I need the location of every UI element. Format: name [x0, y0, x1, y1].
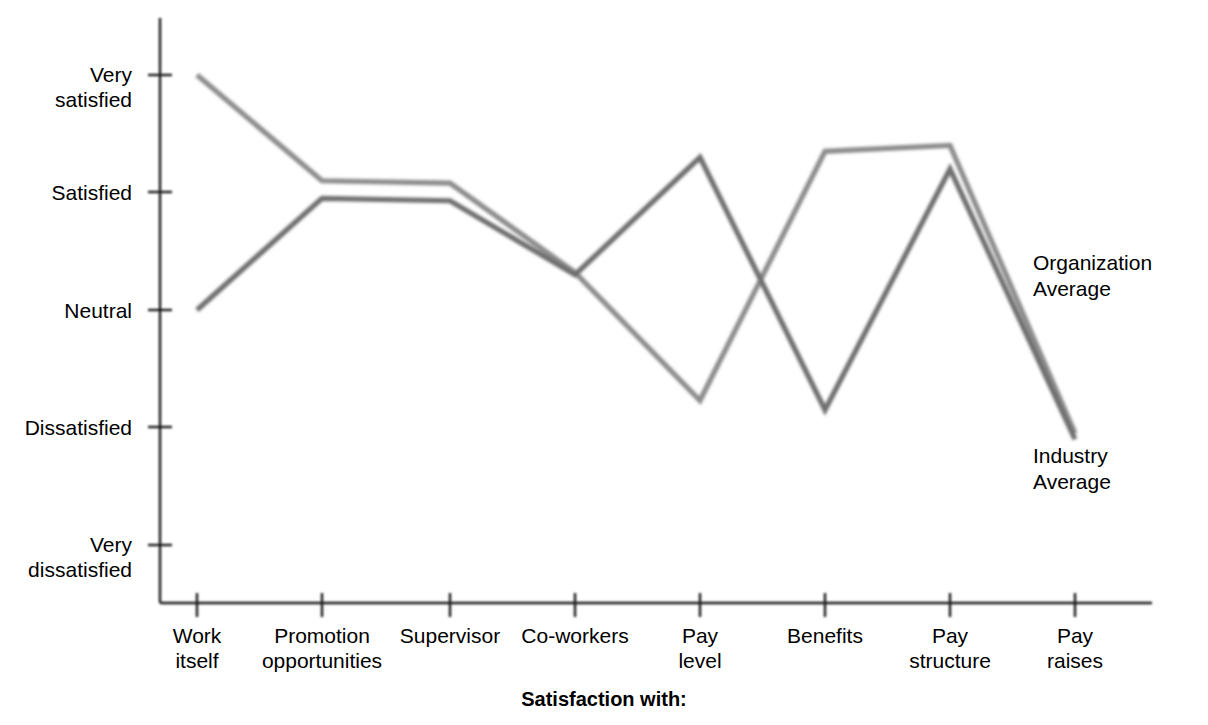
x-tick-label-promotion-opportunities: Promotion opportunities: [240, 623, 404, 673]
y-tick-label-dissatisfied: Dissatisfied: [0, 415, 132, 440]
series-line-organization-average: [197, 75, 1075, 433]
x-tick-label-work-itself: Work itself: [137, 623, 257, 673]
x-tick-label-pay-level: Pay level: [644, 623, 756, 673]
series-label-organization-average: Organization Average: [1033, 250, 1208, 302]
x-tick-label-co-workers: Co-workers: [511, 623, 639, 648]
x-tick-label-pay-structure: Pay structure: [880, 623, 1020, 673]
chart-canvas: [0, 0, 1208, 725]
y-tick-label-very-satisfied: Very satisfied: [0, 62, 132, 112]
x-axis-title: Satisfaction with:: [0, 688, 1208, 711]
x-axis-ticks: [197, 593, 1075, 617]
y-tick-label-satisfied: Satisfied: [0, 180, 132, 205]
x-tick-label-benefits: Benefits: [765, 623, 885, 648]
chart-series-group: [197, 75, 1075, 439]
series-line-industry-average: [197, 157, 1075, 439]
x-tick-label-supervisor: Supervisor: [388, 623, 512, 648]
satisfaction-line-chart: Very satisfied Satisfied Neutral Dissati…: [0, 0, 1208, 725]
chart-axes: [148, 18, 1152, 617]
x-tick-label-pay-raises: Pay raises: [1019, 623, 1131, 673]
y-tick-label-very-dissatisfied: Very dissatisfied: [0, 532, 132, 582]
series-label-industry-average: Industry Average: [1033, 443, 1208, 495]
y-tick-label-neutral: Neutral: [0, 298, 132, 323]
